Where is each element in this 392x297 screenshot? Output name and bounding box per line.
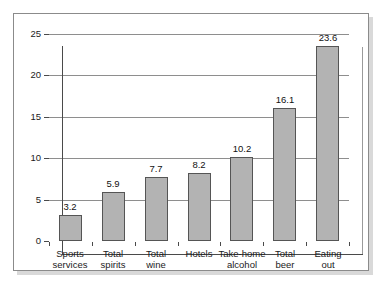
gridline-y-15 (49, 117, 349, 118)
bar-value-label: 8.2 (177, 160, 221, 170)
bar (145, 177, 168, 241)
chart-card: 0510152025 3.25.97.78.210.216.123.6 Spor… (13, 13, 369, 271)
x-axis-label: Eatingout (296, 248, 360, 270)
y-tick-label-0: 0 (5, 236, 41, 246)
y-tick-label-25: 25 (5, 29, 41, 39)
gridline-y-20 (49, 75, 349, 76)
x-axis-label-line: wine (124, 259, 188, 270)
bar-value-label: 23.6 (306, 33, 350, 43)
bar (316, 46, 339, 241)
x-tick (349, 242, 350, 246)
bar-value-label: 16.1 (263, 95, 307, 105)
y-tick-label-10: 10 (5, 153, 41, 163)
bar (59, 215, 82, 241)
x-tick (49, 242, 50, 246)
plot-right-border (362, 47, 363, 255)
gridline-y-25 (49, 34, 349, 35)
x-tick (135, 242, 136, 246)
bar (102, 192, 125, 241)
bar (188, 173, 211, 241)
x-tick (92, 242, 93, 246)
bar-value-label: 3.2 (48, 202, 92, 212)
x-axis-label-line: Eating (296, 248, 360, 259)
x-axis-label-line: out (296, 259, 360, 270)
bar (273, 108, 296, 241)
y-tick-label-20: 20 (5, 70, 41, 80)
x-tick (306, 242, 307, 246)
y-tick-label-15: 15 (5, 112, 41, 122)
x-tick (220, 242, 221, 246)
x-tick (263, 242, 264, 246)
x-tick (178, 242, 179, 246)
bar (230, 157, 253, 241)
bar-value-label: 7.7 (134, 164, 178, 174)
bar-value-label: 10.2 (220, 144, 264, 154)
chart-page: 0510152025 3.25.97.78.210.216.123.6 Spor… (0, 0, 392, 297)
bar-value-label: 5.9 (91, 179, 135, 189)
y-tick-label-5: 5 (5, 195, 41, 205)
